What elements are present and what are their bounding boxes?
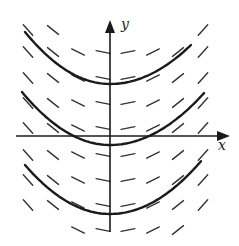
slope-mark: [48, 176, 59, 185]
slope-mark: [198, 175, 207, 185]
x-axis-label: x: [218, 137, 226, 153]
slope-mark: [72, 152, 85, 158]
slope-mark: [121, 204, 135, 207]
slope-mark: [147, 49, 160, 55]
slope-mark: [72, 100, 85, 106]
slope-mark: [48, 151, 59, 160]
slope-mark: [121, 127, 135, 130]
slope-mark: [198, 25, 207, 35]
slope-field-diagram: x y: [0, 0, 239, 246]
slope-mark: [147, 152, 160, 158]
slope-mark: [121, 179, 135, 182]
slope-mark: [198, 150, 207, 160]
slope-mark: [23, 73, 32, 83]
slope-mark: [96, 102, 110, 105]
slope-mark: [121, 51, 135, 54]
slope-mark: [198, 123, 207, 133]
slope-mark: [72, 177, 85, 183]
slope-mark: [121, 154, 135, 157]
slope-mark: [173, 124, 184, 133]
solution-curve-lower: [25, 161, 201, 214]
slope-mark: [48, 48, 59, 57]
slope-mark: [121, 77, 135, 80]
slope-mark: [147, 125, 160, 131]
slope-mark: [23, 25, 32, 35]
slope-mark: [198, 73, 207, 83]
slope-mark: [23, 150, 32, 160]
slope-mark: [72, 227, 85, 233]
slope-mark: [96, 229, 110, 232]
slope-mark: [173, 226, 184, 235]
slope-mark: [121, 102, 135, 105]
slope-mark: [173, 99, 184, 108]
y-axis-label: y: [120, 16, 130, 32]
slope-mark: [23, 123, 32, 133]
slope-mark: [48, 99, 59, 108]
slope-mark: [198, 200, 207, 210]
slope-mark: [72, 125, 85, 131]
slope-mark: [173, 151, 184, 160]
slope-mark: [198, 47, 207, 57]
slope-mark: [96, 51, 110, 54]
slope-mark: [96, 77, 110, 80]
slope-mark: [23, 47, 32, 57]
slope-mark: [96, 154, 110, 157]
slope-mark: [121, 229, 135, 232]
slope-mark: [173, 201, 184, 210]
slope-mark: [147, 100, 160, 106]
slope-mark: [96, 204, 110, 207]
slope-mark: [147, 177, 160, 183]
slope-mark: [72, 49, 85, 55]
y-axis-arrow-icon: [105, 20, 115, 33]
slope-mark: [147, 227, 160, 233]
slope-mark: [23, 200, 32, 210]
slope-mark: [48, 74, 59, 83]
slope-mark: [48, 201, 59, 210]
slope-mark: [48, 26, 59, 35]
solution-curves: [22, 32, 204, 214]
slope-mark: [96, 127, 110, 130]
slope-mark: [96, 179, 110, 182]
slope-mark: [23, 175, 32, 185]
slope-mark: [173, 74, 184, 83]
